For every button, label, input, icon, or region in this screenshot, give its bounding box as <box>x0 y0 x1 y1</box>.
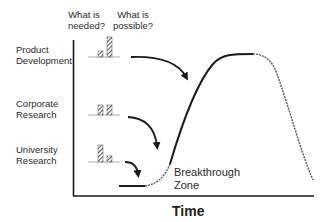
arrow-product-development <box>131 57 186 77</box>
bar-corporate-research-possible <box>107 105 112 115</box>
curve-decline <box>253 54 313 180</box>
arrow-university-research <box>125 162 138 174</box>
bar-university-research-possible <box>107 156 112 162</box>
bar-corporate-research-needed <box>98 105 103 115</box>
arrow-corporate-research <box>128 117 157 146</box>
bar-groups <box>98 37 112 162</box>
bar-product-development-possible <box>107 37 112 57</box>
bar-university-research-needed <box>98 145 103 162</box>
diagram-canvas <box>0 0 327 222</box>
curve-breakthrough-transition <box>145 164 170 186</box>
bar-product-development-needed <box>98 51 103 57</box>
